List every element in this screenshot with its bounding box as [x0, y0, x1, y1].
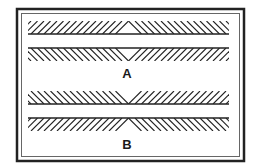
hatch-band	[0, 48, 258, 61]
panel-label-b: B	[117, 137, 137, 152]
hatch-band	[0, 91, 258, 104]
hatch-band	[0, 118, 258, 131]
inner-frame	[22, 14, 240, 157]
hatch-band	[0, 21, 258, 34]
panel-label-a: A	[117, 66, 137, 81]
